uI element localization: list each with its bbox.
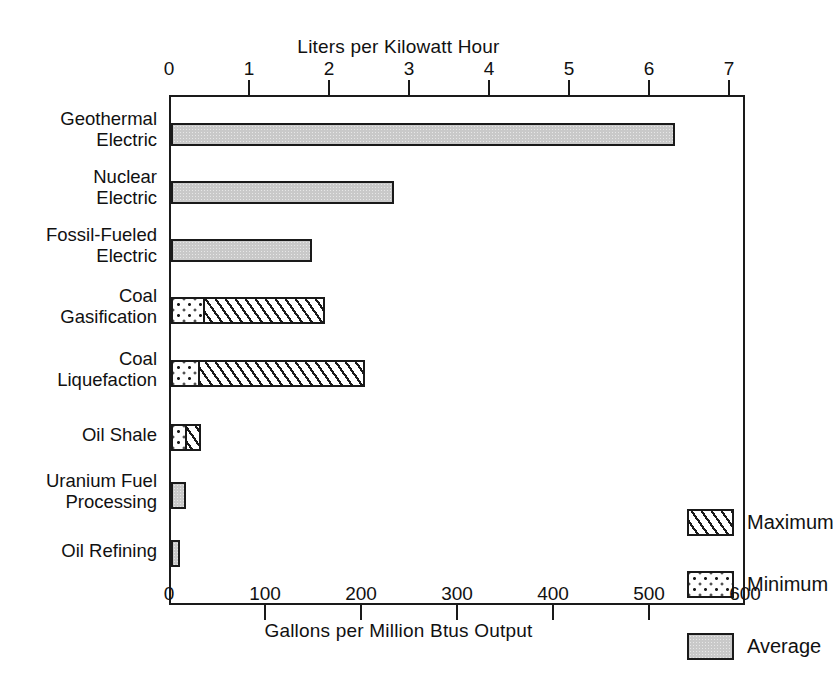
category-label: Coal Liquefaction	[57, 348, 157, 390]
bar-segment-average	[171, 482, 186, 509]
category-label: Geothermal Electric	[60, 108, 157, 150]
category-label: Oil Refining	[61, 540, 157, 561]
top-tick-label: 3	[404, 58, 415, 80]
top-tick-mark	[328, 80, 330, 95]
bar-segment-average	[171, 540, 180, 567]
top-axis-title: Liters per Kilowatt Hour	[0, 36, 797, 58]
bottom-tick-mark	[360, 605, 362, 620]
category-label: Fossil-Fueled Electric	[46, 224, 157, 266]
top-tick-mark	[648, 80, 650, 95]
legend-swatch-minimum	[687, 571, 734, 598]
bottom-tick-mark	[648, 605, 650, 620]
bottom-tick-mark	[456, 605, 458, 620]
top-tick-mark	[488, 80, 490, 95]
top-tick-label: 7	[724, 58, 735, 80]
bottom-tick-label: 100	[249, 583, 281, 605]
top-tick-mark	[568, 80, 570, 95]
top-tick-label: 1	[244, 58, 255, 80]
bar-segment-minimum	[171, 297, 205, 324]
legend-swatch-maximum	[687, 509, 734, 536]
bar-segment-minimum	[171, 360, 200, 387]
bottom-tick-label: 600	[729, 583, 761, 605]
top-tick-label: 6	[644, 58, 655, 80]
top-tick-label: 0	[164, 58, 175, 80]
top-tick-label: 2	[324, 58, 335, 80]
category-label: Oil Shale	[82, 424, 157, 445]
bottom-tick-label: 0	[164, 583, 175, 605]
bar-segment-average	[171, 181, 394, 204]
bottom-axis-title: Gallons per Million Btus Output	[0, 620, 797, 642]
plot-area: MaximumMinimumAverage	[169, 95, 745, 605]
bottom-tick-label: 300	[441, 583, 473, 605]
bottom-tick-label: 500	[633, 583, 665, 605]
bottom-tick-label: 200	[345, 583, 377, 605]
top-tick-mark	[728, 80, 730, 95]
bar-segment-average	[171, 239, 312, 262]
bottom-tick-mark	[264, 605, 266, 620]
top-tick-label: 4	[484, 58, 495, 80]
category-label: Nuclear Electric	[93, 166, 157, 208]
top-tick-mark	[408, 80, 410, 95]
category-label: Coal Gasification	[60, 285, 157, 327]
legend-label: Maximum	[747, 511, 834, 534]
category-label: Uranium Fuel Processing	[46, 470, 157, 512]
legend-item: Maximum	[687, 509, 834, 536]
bar-segment-average	[171, 123, 675, 146]
bar-segment-minimum	[171, 424, 187, 451]
bottom-tick-mark	[552, 605, 554, 620]
top-tick-label: 5	[564, 58, 575, 80]
bottom-tick-label: 400	[537, 583, 569, 605]
top-tick-mark	[248, 80, 250, 95]
bar-segment-maximum	[171, 360, 365, 387]
